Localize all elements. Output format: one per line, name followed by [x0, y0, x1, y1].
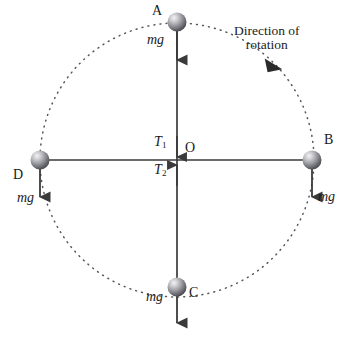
tension-label-T1: T1 [154, 135, 166, 150]
rotation-label-line1: Direction of [234, 23, 300, 38]
tension-subscript-T2: 2 [162, 168, 167, 178]
point-label-C: C [189, 286, 198, 301]
tension-label-T2: T2 [154, 163, 166, 178]
center-label-O: O [185, 141, 195, 156]
physics-diagram: A B C D O mg mg mg mg T1 T2 Direction of… [0, 0, 352, 340]
bob-C [168, 278, 187, 297]
bob-B [303, 151, 322, 170]
rotation-label-line2: rotation [234, 38, 300, 52]
bob-A [168, 13, 187, 32]
point-label-B: B [324, 133, 333, 148]
tension-subscript-T1: 1 [162, 140, 167, 150]
weight-label-A: mg [147, 33, 164, 48]
point-label-D: D [13, 168, 23, 183]
point-label-A: A [152, 4, 162, 19]
rotation-direction-arrow-icon [265, 55, 283, 72]
rotation-direction-label: Direction of rotation [234, 24, 300, 52]
tension-symbol-T2: T [154, 162, 162, 177]
tension-symbol-T1: T [154, 134, 162, 149]
weight-label-C: mg [146, 290, 163, 305]
weight-label-D: mg [17, 191, 34, 206]
weight-label-B: mg [318, 190, 335, 205]
bob-D [31, 151, 50, 170]
